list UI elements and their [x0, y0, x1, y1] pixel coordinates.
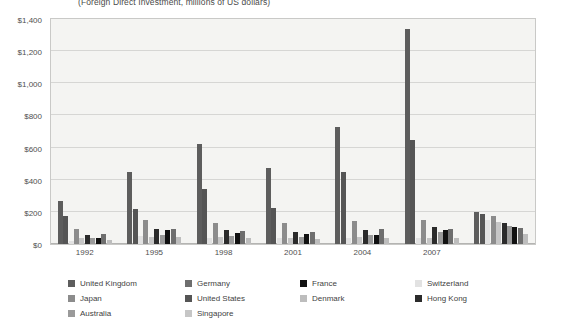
y-axis-tick-label: $0: [33, 241, 42, 250]
bar: [368, 235, 373, 244]
x-axis-tick-label: 1992: [76, 248, 94, 257]
bar: [427, 238, 432, 244]
legend-label: France: [312, 279, 337, 288]
legend-item[interactable]: Denmark: [300, 292, 344, 304]
legend-swatch-icon: [68, 295, 75, 302]
y-axis-tick-label: $600: [24, 144, 42, 153]
bar: [379, 229, 384, 244]
bar: [165, 230, 170, 244]
bar: [58, 201, 63, 244]
legend-swatch-icon: [185, 295, 192, 302]
legend-item[interactable]: Singapore: [185, 307, 233, 319]
bar: [480, 214, 485, 244]
bar: [346, 238, 351, 244]
bar: [240, 231, 245, 244]
bar: [335, 127, 340, 244]
bar: [448, 229, 453, 244]
legend-label: United States: [197, 294, 245, 303]
bar: [207, 238, 212, 244]
bar: [293, 232, 298, 244]
bar: [299, 237, 304, 244]
bar: [197, 144, 202, 244]
bar: [432, 227, 437, 244]
legend-item[interactable]: United Kingdom: [68, 277, 137, 289]
bar: [357, 237, 362, 244]
bar: [160, 235, 165, 244]
bar: [496, 222, 501, 245]
y-axis-tick-label: $400: [24, 176, 42, 185]
x-axis-tick-label: 1995: [145, 248, 163, 257]
legend-item[interactable]: Japan: [68, 292, 102, 304]
bar-group: [190, 19, 259, 244]
bar: [352, 221, 357, 244]
bar: [315, 239, 320, 244]
bar: [224, 230, 229, 244]
bar: [454, 238, 459, 244]
bar: [282, 223, 287, 244]
bar: [171, 229, 176, 244]
chart-legend: United KingdomUnited StatesSwitzerlandJa…: [68, 277, 498, 321]
legend-label: Hong Kong: [427, 294, 467, 303]
bar: [229, 236, 234, 244]
bar: [127, 172, 132, 244]
bar-group: [329, 19, 398, 244]
legend-label: Australia: [80, 309, 111, 318]
bar: [277, 238, 282, 244]
plot-background: [50, 18, 536, 245]
bar: [271, 208, 276, 244]
y-axis-tick-label: $200: [24, 208, 42, 217]
bar: [63, 216, 68, 244]
legend-swatch-icon: [68, 310, 75, 317]
bar: [79, 238, 84, 244]
legend-item[interactable]: United States: [185, 292, 245, 304]
legend-swatch-icon: [415, 295, 422, 302]
bar: [374, 235, 379, 244]
x-axis-tick-label: 2007: [423, 248, 441, 257]
y-axis-tick-label: $1,000: [18, 80, 42, 89]
bar: [310, 232, 315, 244]
bar: [107, 240, 112, 244]
bar-group: [468, 19, 536, 244]
bar: [416, 238, 421, 244]
bar: [149, 237, 154, 244]
plot-area: [50, 18, 536, 245]
legend-swatch-icon: [300, 280, 307, 287]
bar: [438, 232, 443, 244]
bar: [96, 238, 101, 244]
legend-item[interactable]: Australia: [68, 307, 111, 319]
y-axis-tick-label: $800: [24, 112, 42, 121]
legend-item[interactable]: Switzerland: [415, 277, 468, 289]
bar: [341, 172, 346, 244]
bar: [384, 238, 389, 244]
legend-item[interactable]: Hong Kong: [415, 292, 467, 304]
bar: [101, 234, 106, 244]
bar: [69, 241, 74, 244]
bar: [523, 234, 528, 244]
bar: [133, 209, 138, 244]
bar: [246, 238, 251, 244]
legend-label: Singapore: [197, 309, 233, 318]
bar: [202, 189, 207, 244]
legend-swatch-icon: [185, 310, 192, 317]
bar: [143, 220, 148, 244]
bar: [443, 230, 448, 244]
chart-root: (Foreign Direct Investment, millions of …: [0, 0, 561, 327]
bar: [288, 238, 293, 244]
bar: [304, 234, 309, 244]
bar: [485, 220, 490, 244]
bar: [507, 226, 512, 244]
bar: [363, 230, 368, 244]
legend-item[interactable]: Germany: [185, 277, 230, 289]
bar: [218, 237, 223, 244]
bar: [74, 229, 79, 244]
bar-group: [51, 19, 120, 244]
x-axis-tick-label: 2001: [284, 248, 302, 257]
bar: [235, 233, 240, 244]
x-axis-labels: 199219951998200120042007: [50, 248, 536, 262]
bar-group: [120, 19, 189, 244]
legend-item[interactable]: France: [300, 277, 337, 289]
legend-swatch-icon: [68, 280, 75, 287]
bar: [138, 236, 143, 244]
bar: [518, 228, 523, 244]
bar-group: [398, 19, 467, 244]
